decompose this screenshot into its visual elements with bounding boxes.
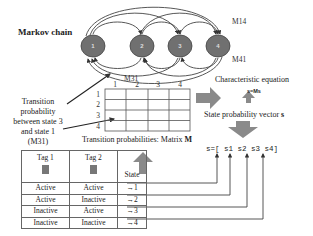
state-connectors [127, 154, 263, 219]
state-probability-vector-label: State probability vector s [204, 110, 284, 119]
header-label: Tag 1 [37, 153, 54, 162]
note-line: (M31) [4, 137, 72, 147]
transition-note: Transition probability between state 3 a… [4, 97, 72, 147]
table-row: Active Active →1 [22, 183, 147, 195]
matrix-caption: Transition probabilities: Matrix M [82, 135, 192, 144]
note-line: probability [4, 107, 72, 117]
arrow-right-icon: → [126, 195, 134, 204]
arrow-right-icon: → [126, 183, 134, 192]
cell-state: →3 [118, 206, 147, 218]
cell-tag2: Inactive [70, 194, 118, 206]
svg-text:2: 2 [135, 80, 139, 89]
cell-tag2: Active [70, 183, 118, 195]
header-tag1: Tag 1 [22, 151, 70, 183]
cell-state: →1 [118, 183, 147, 195]
characteristic-equation-formula: s=Ms [247, 88, 261, 94]
svg-text:1: 1 [113, 80, 117, 89]
spv-symbol: s [281, 110, 284, 119]
svg-text:3: 3 [156, 80, 160, 89]
table-row: Inactive Active →3 [22, 206, 147, 218]
header-state: State [118, 151, 147, 183]
svg-text:2: 2 [96, 100, 100, 109]
edge-label-m41: M41 [232, 55, 246, 64]
svg-text:1: 1 [96, 90, 100, 99]
arrow-right-icon: → [126, 206, 134, 215]
state-number: 4 [134, 218, 138, 227]
note-line: and state 1 [4, 127, 72, 137]
state-vector-expression: s=[ s1 s2 s3 s4] [206, 145, 278, 153]
state-number: 1 [134, 183, 138, 192]
svg-text:4: 4 [178, 80, 182, 89]
markov-nodes: 1 2 3 4 [81, 35, 230, 57]
svg-text:4: 4 [96, 122, 100, 131]
caption-symbol: M [185, 135, 193, 144]
table-row: Inactive Inactive →4 [22, 217, 147, 229]
state-number: 3 [134, 206, 138, 215]
state-table: Tag 1 Tag 2 State Active Active →1 Activ… [21, 150, 147, 229]
header-label: Tag 2 [85, 153, 102, 162]
cell-state: →2 [118, 194, 147, 206]
pointer-to-chain [67, 74, 110, 104]
arrow-right-icon: → [126, 218, 134, 227]
caption-text: Transition probabilities: Matrix [82, 135, 185, 144]
characteristic-equation-label: Characteristic equation [215, 75, 289, 84]
cell-tag2: Inactive [70, 217, 118, 229]
note-line: Transition [4, 97, 72, 107]
cell-tag2: Active [70, 206, 118, 218]
cell-state: →4 [118, 217, 147, 229]
table-row: Active Inactive →2 [22, 194, 147, 206]
tag-icon [90, 165, 97, 174]
block-arrow-right [196, 87, 221, 109]
spv-text: State probability vector [204, 110, 281, 119]
header-tag2: Tag 2 [70, 151, 118, 183]
svg-text:3: 3 [96, 111, 100, 120]
block-arrow-down [228, 121, 258, 138]
cell-tag1: Inactive [22, 217, 70, 229]
state-number: 2 [134, 195, 138, 204]
state-table-header: Tag 1 Tag 2 State [22, 151, 147, 183]
transition-matrix [105, 89, 190, 131]
cell-tag1: Active [22, 183, 70, 195]
cell-tag1: Active [22, 194, 70, 206]
tag-icon [42, 165, 49, 174]
note-line: between state 3 [4, 117, 72, 127]
edge-label-m14: M14 [232, 17, 246, 26]
cell-tag1: Inactive [22, 206, 70, 218]
markov-chain-title: Markov chain [18, 27, 72, 37]
block-arrows [133, 87, 258, 174]
